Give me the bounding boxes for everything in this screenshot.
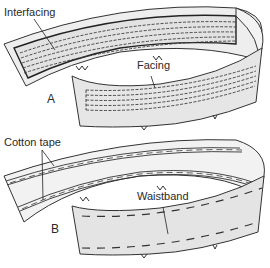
waistband-front <box>72 176 264 255</box>
cotton-tape-label: Cotton tape <box>4 136 61 148</box>
facing-label: Facing <box>137 59 170 71</box>
notch-mark <box>213 245 217 249</box>
panel-a-label: A <box>47 92 55 106</box>
notch-mark <box>80 197 89 201</box>
panel-a: Interfacing Facing A <box>4 6 263 130</box>
waistband-diagram: Interfacing Facing A Cot <box>0 0 270 268</box>
notch-mark <box>76 66 88 70</box>
waistband-label: Waistband <box>137 190 189 202</box>
panel-b: Cotton tape Waistband B <box>4 136 264 258</box>
panel-b-label: B <box>51 222 59 236</box>
interfacing-label: Interfacing <box>4 6 55 18</box>
